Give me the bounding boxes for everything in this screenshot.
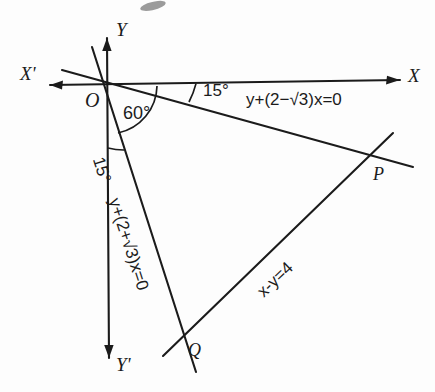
point-q-label: Q — [188, 341, 201, 359]
angle-arc-15-x-axis — [189, 84, 196, 102]
diagram-canvas — [0, 0, 435, 392]
line-pq — [163, 133, 393, 356]
x-axis-negative-arrow — [50, 81, 63, 90]
angle-arc-15-y-axis — [108, 148, 124, 150]
x-positive-axis-label: X — [408, 66, 420, 85]
y-axis-negative-arrow — [104, 345, 113, 358]
line-op-equation-label: y+(2−√3)x=0 — [246, 91, 342, 108]
y-axis-positive-arrow — [102, 38, 111, 51]
y-negative-axis-label: Y' — [116, 355, 131, 374]
x-negative-axis-label: X' — [20, 64, 36, 83]
origin-label: O — [85, 90, 99, 110]
angle-60-label: 60° — [123, 104, 150, 122]
angle-15-x-axis-label: 15° — [203, 82, 229, 99]
y-positive-axis-label: Y — [116, 20, 127, 39]
geometry-figure: X' X Y Y' O P Q 15° 60° 15° y+(2−√3)x=0 … — [0, 0, 435, 392]
x-axis-positive-arrow — [386, 76, 400, 85]
point-p-label: P — [373, 165, 384, 183]
